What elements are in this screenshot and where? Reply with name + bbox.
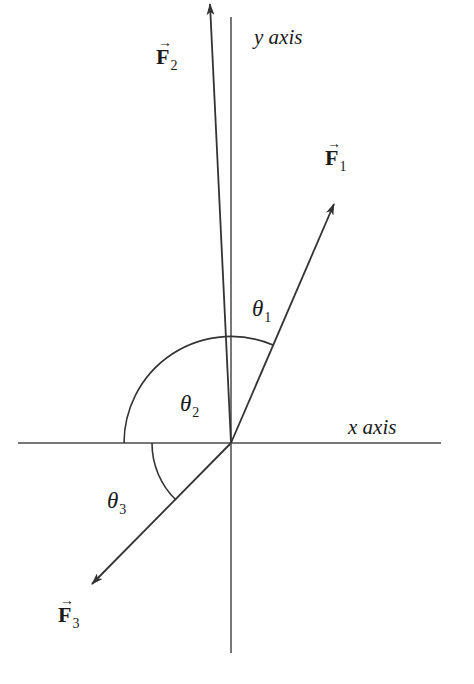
- vector-arrow-icon: →: [158, 35, 172, 51]
- theta1-label: θ1: [252, 296, 271, 326]
- theta2-arc: [124, 336, 273, 443]
- vector-arrow-icon: →: [327, 136, 341, 152]
- theta3-arc: [152, 443, 176, 500]
- x-axis-label: x axis: [348, 415, 396, 440]
- theta2-label: θ2: [180, 391, 199, 421]
- vector-f1-arrow: [231, 204, 334, 443]
- force-diagram: [0, 0, 474, 684]
- y-axis-label: y axis: [254, 25, 302, 50]
- vector-f1-label: →F1: [325, 145, 346, 175]
- vector-f2-arrow: [210, 4, 231, 443]
- vector-f2-label: →F2: [156, 44, 177, 74]
- vector-f3-label: →F3: [58, 602, 79, 632]
- theta3-label: θ3: [107, 488, 126, 518]
- vector-arrow-icon: →: [60, 593, 74, 609]
